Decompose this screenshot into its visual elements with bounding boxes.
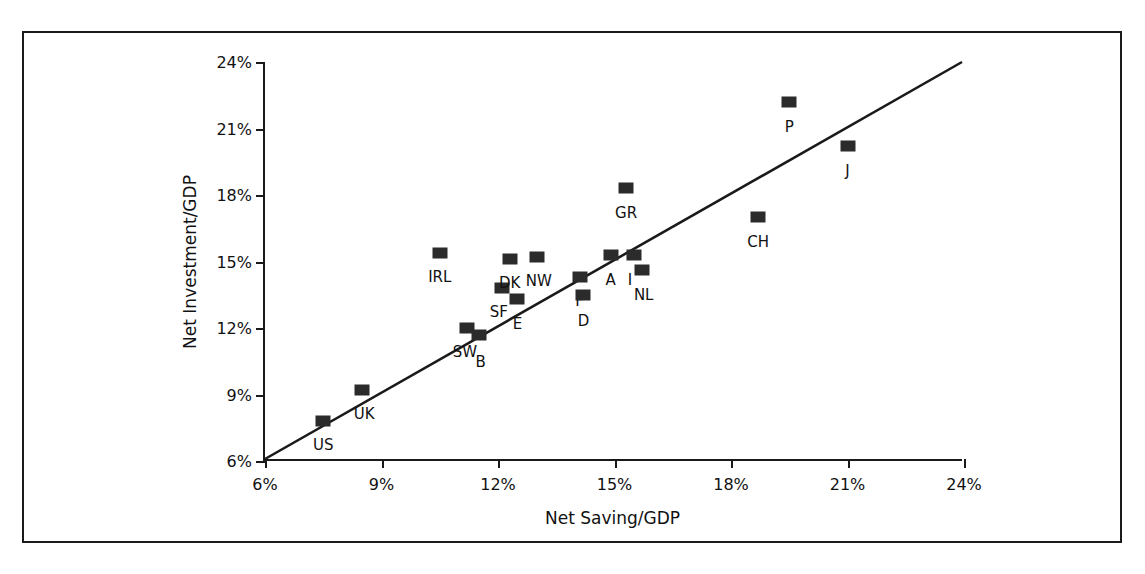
data-point-label-sf: SF <box>490 303 508 321</box>
x-tick-label: 12% <box>480 475 516 494</box>
data-point-label-i: I <box>628 271 632 289</box>
x-tick-15pct <box>615 459 617 468</box>
data-point-nw <box>529 252 544 263</box>
data-point-uk <box>355 385 370 396</box>
chart-page: Net Investment/GDP 6%9%12%15%18%21%24% 6… <box>0 0 1145 574</box>
x-tick-label: 6% <box>252 475 277 494</box>
data-point-label-uk: UK <box>354 405 375 423</box>
x-tick-9pct <box>382 459 384 468</box>
data-point-label-ch: CH <box>747 233 769 251</box>
data-point-label-nl: NL <box>634 286 654 304</box>
data-point-label-a: A <box>605 271 615 289</box>
data-point-label-us: US <box>313 436 334 454</box>
x-tick-label: 15% <box>597 475 633 494</box>
x-tick-18pct <box>731 459 733 468</box>
data-point-d <box>576 289 591 300</box>
data-point-p <box>782 96 797 107</box>
y-tick-label: 12% <box>216 319 252 338</box>
data-point-nl <box>634 265 649 276</box>
data-point-dk <box>502 254 517 265</box>
data-point-j <box>840 141 855 152</box>
data-point-us <box>316 416 331 427</box>
x-tick-24pct <box>964 459 966 468</box>
x-tick-6pct <box>265 459 267 468</box>
data-point-b <box>471 329 486 340</box>
plot-area: 6%9%12%15%18%21%24% 6%9%12%15%18%21%24% … <box>263 62 962 461</box>
data-point-label-d: D <box>578 312 590 330</box>
y-tick-21pct <box>256 129 265 131</box>
data-point-e <box>510 294 525 305</box>
y-tick-label: 18% <box>216 186 252 205</box>
y-tick-label: 6% <box>227 452 252 471</box>
reference-line <box>265 62 962 459</box>
y-tick-9pct <box>256 395 265 397</box>
data-point-i <box>626 249 641 260</box>
y-tick-label: 15% <box>216 252 252 271</box>
x-tick-21pct <box>848 459 850 468</box>
data-point-gr <box>619 183 634 194</box>
data-point-f <box>572 272 587 283</box>
x-tick-label: 9% <box>369 475 394 494</box>
y-tick-12pct <box>256 328 265 330</box>
x-tick-label: 18% <box>713 475 749 494</box>
data-point-label-nw: NW <box>526 272 552 290</box>
y-tick-24pct <box>256 62 265 64</box>
data-point-ch <box>751 212 766 223</box>
data-point-label-p: P <box>785 118 794 136</box>
data-point-label-b: B <box>475 353 485 371</box>
data-point-label-irl: IRL <box>428 268 451 286</box>
y-tick-label: 21% <box>216 119 252 138</box>
data-point-label-e: E <box>513 315 522 333</box>
y-tick-18pct <box>256 195 265 197</box>
data-point-label-gr: GR <box>615 204 637 222</box>
x-axis-title: Net Saving/GDP <box>263 508 962 528</box>
y-axis-title-text: Net Investment/GDP <box>180 175 200 349</box>
data-point-label-j: J <box>845 162 849 180</box>
x-tick-12pct <box>498 459 500 468</box>
y-tick-15pct <box>256 262 265 264</box>
data-point-label-dk: DK <box>499 274 520 292</box>
y-tick-label: 24% <box>216 53 252 72</box>
y-tick-6pct <box>256 461 265 463</box>
data-point-a <box>603 249 618 260</box>
data-point-label-sw: SW <box>453 343 477 361</box>
y-axis-title: Net Investment/GDP <box>179 62 201 461</box>
x-tick-label: 24% <box>946 475 982 494</box>
x-tick-label: 21% <box>830 475 866 494</box>
data-point-irl <box>432 247 447 258</box>
y-tick-label: 9% <box>227 385 252 404</box>
